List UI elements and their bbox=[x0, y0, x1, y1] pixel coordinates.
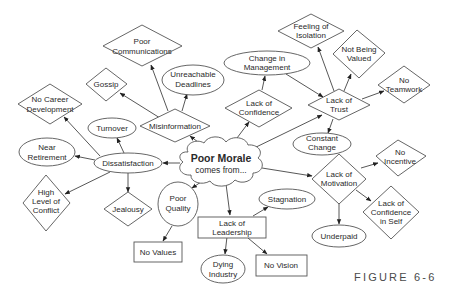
node-stagnation: Stagnation bbox=[259, 189, 315, 209]
node-near-retirement: Near Retirement bbox=[19, 138, 75, 166]
node-label: Lack of bbox=[219, 219, 246, 228]
node-label: No bbox=[395, 148, 406, 157]
center-title: Poor Morale bbox=[191, 152, 252, 164]
node-label: Misinformation bbox=[149, 122, 201, 131]
node-label: No Career bbox=[32, 95, 69, 104]
node-label: Confidence bbox=[371, 208, 412, 217]
node-label: Management bbox=[244, 63, 291, 72]
node-label: Poor bbox=[170, 194, 187, 203]
node-underpaid: Underpaid bbox=[312, 225, 366, 247]
edge-poor-quality-no-values bbox=[163, 226, 172, 241]
node-unreachable-deadlines: Unreachable Deadlines bbox=[162, 65, 224, 95]
node-label: Constant bbox=[306, 134, 339, 143]
node-label: Communications bbox=[112, 47, 172, 56]
node-label: Isolation bbox=[296, 31, 326, 40]
node-label: Jealousy bbox=[112, 205, 144, 214]
node-lack-of-confidence: Lack of Confidence bbox=[225, 90, 292, 127]
node-label: No Vision bbox=[264, 261, 298, 270]
node-poor-quality: Poor Quality bbox=[158, 182, 198, 226]
edge-dissatisfaction-turnover bbox=[117, 138, 124, 153]
node-no-vision: No Vision bbox=[256, 255, 307, 276]
node-label: Stagnation bbox=[268, 195, 306, 204]
node-label: Confidence bbox=[239, 108, 280, 117]
node-label: Not Being bbox=[341, 45, 376, 54]
figure-caption: FIGURE 6-6 bbox=[354, 271, 437, 283]
node-no-teamwork: No Teamwork bbox=[378, 66, 430, 103]
node-lack-of-leadership: Lack of Leadership bbox=[198, 217, 266, 238]
node-label: Unreachable bbox=[170, 70, 216, 79]
node-not-being-valued: Not Being Valued bbox=[333, 30, 385, 78]
node-label: Gossip bbox=[94, 80, 119, 89]
node-misinformation: Misinformation bbox=[140, 109, 210, 142]
node-label: Lack of bbox=[246, 99, 273, 108]
node-label: Lack of bbox=[326, 170, 353, 179]
node-label: Deadlines bbox=[175, 80, 211, 89]
edge-morale-lack-of-leadership bbox=[226, 184, 230, 215]
node-label: Lack of bbox=[378, 199, 405, 208]
node-label: Turnover bbox=[96, 124, 128, 133]
node-label: Valued bbox=[347, 54, 371, 63]
node-label: Dying bbox=[213, 260, 233, 269]
edge-misinformation-poor-communications bbox=[151, 65, 168, 111]
node-label: Industry bbox=[209, 270, 237, 279]
node-label: No Values bbox=[140, 248, 176, 257]
node-label: Feeling of bbox=[293, 22, 329, 31]
edge-trust-not-being-valued bbox=[344, 74, 351, 91]
node-no-incentive: No Incentive bbox=[376, 140, 426, 176]
edge-confidence-change-in-management bbox=[262, 76, 265, 90]
node-label: Level of bbox=[32, 197, 61, 206]
node-label: Dissatisfaction bbox=[102, 159, 154, 168]
edge-change-in-management-lack-of-trust bbox=[286, 74, 323, 97]
edge-leadership-stagnation bbox=[253, 207, 268, 216]
node-label: Poor bbox=[134, 37, 151, 46]
node-dissatisfaction: Dissatisfaction bbox=[94, 153, 162, 173]
node-label: Underpaid bbox=[321, 232, 358, 241]
edge-dissatisfaction-high-level-of-conflict bbox=[65, 172, 110, 194]
node-label: Teamwork bbox=[386, 85, 423, 94]
edge-morale-lack-of-motivation bbox=[262, 168, 312, 176]
node-label: Retirement bbox=[27, 153, 67, 162]
node-label: Incentive bbox=[384, 157, 417, 166]
node-gossip: Gossip bbox=[86, 68, 127, 101]
node-label: Lack of bbox=[326, 96, 353, 105]
edge-leadership-no-vision bbox=[248, 238, 267, 254]
node-label: Near bbox=[38, 143, 56, 152]
edge-misinformation-unreachable-deadlines bbox=[182, 94, 187, 111]
node-label: Quality bbox=[166, 204, 191, 213]
edge-trust-constant-change bbox=[328, 119, 333, 133]
edge-motivation-confidence-in-self bbox=[356, 190, 371, 201]
node-label: in Self bbox=[380, 217, 403, 226]
edge-misinformation-gossip bbox=[120, 93, 160, 118]
node-dying-industry: Dying Industry bbox=[201, 255, 245, 283]
node-feeling-of-isolation: Feeling of Isolation bbox=[278, 14, 344, 48]
node-label: Leadership bbox=[212, 228, 252, 237]
node-label: High bbox=[38, 188, 54, 197]
node-turnover: Turnover bbox=[88, 118, 136, 138]
node-label: Motivation bbox=[321, 179, 357, 188]
edge-dissatisfaction-near-retirement bbox=[75, 156, 95, 160]
node-change-in-management: Change in Management bbox=[224, 51, 310, 75]
node-high-level-of-conflict: High Level of Conflict bbox=[23, 175, 70, 231]
node-label: No bbox=[399, 76, 410, 85]
node-label: Trust bbox=[330, 105, 349, 114]
node-label: Change in bbox=[249, 54, 285, 63]
poor-morale-concept-map: Poor Communications Gossip Unreachable D… bbox=[0, 0, 451, 298]
edge-trust-feeling-of-isolation bbox=[318, 47, 334, 91]
edge-trust-no-teamwork bbox=[362, 91, 384, 99]
node-no-values: No Values bbox=[134, 242, 182, 262]
node-poor-morale-center: Poor Morale comes from... bbox=[180, 137, 263, 186]
node-lack-of-motivation: Lack of Motivation bbox=[312, 154, 366, 204]
node-poor-communications: Poor Communications bbox=[103, 25, 182, 66]
node-jealousy: Jealousy bbox=[104, 192, 152, 226]
edge-motivation-no-incentive bbox=[361, 163, 378, 168]
node-constant-change: Constant Change bbox=[293, 133, 351, 155]
node-label: Development bbox=[26, 105, 74, 114]
node-label: Conflict bbox=[33, 206, 60, 215]
node-no-career-development: No Career Development bbox=[18, 84, 82, 124]
node-label: Change bbox=[308, 143, 337, 152]
node-lack-of-confidence-in-self: Lack of Confidence in Self bbox=[363, 186, 419, 239]
center-subtitle: comes from... bbox=[195, 165, 246, 175]
